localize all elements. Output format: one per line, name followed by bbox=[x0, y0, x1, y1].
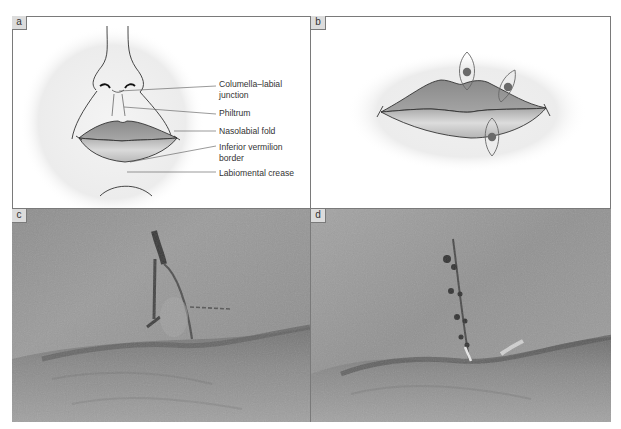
panel-label-d: d bbox=[311, 209, 326, 223]
label-columella-labial: Columella–labial bbox=[219, 79, 282, 89]
panel-label-b: b bbox=[311, 16, 326, 30]
preoperative-marking-photo bbox=[12, 209, 310, 422]
label-philtrum: Philtrum bbox=[219, 108, 251, 118]
label-nasolabial-fold: Nasolabial fold bbox=[219, 126, 275, 136]
label-inferior-vermilion: Inferior vermilion bbox=[219, 142, 283, 152]
panel-label-a: a bbox=[12, 16, 27, 30]
label-vermilion-border: border bbox=[219, 153, 244, 163]
label-labiomental-crease: Labiomental crease bbox=[219, 168, 294, 178]
panel-b: b bbox=[310, 16, 611, 208]
lip-excision-diagram bbox=[311, 16, 611, 208]
panel-c: c bbox=[12, 208, 310, 422]
panel-label-c: c bbox=[12, 209, 27, 223]
panel-d: d bbox=[310, 208, 611, 422]
face-diagram bbox=[12, 16, 310, 208]
label-columella-junction: junction bbox=[219, 90, 249, 100]
postoperative-suture-photo bbox=[311, 209, 611, 422]
panel-a: a bbox=[12, 16, 310, 208]
